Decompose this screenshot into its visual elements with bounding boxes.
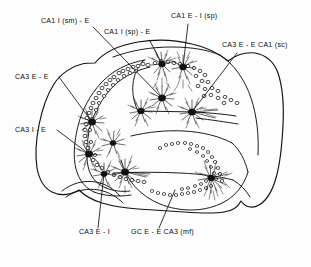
- annotation-labels: CA1 I (sm) - E CA1 I (sp) - E CA1 E - I …: [15, 12, 288, 236]
- leader-ca3-e-e: [59, 77, 92, 122]
- label-ca1-i-sp-e: CA1 I (sp) - E: [104, 28, 150, 36]
- dg-granule-layer-lower: [150, 180, 212, 197]
- hippocampal-slice-drawing: CA1 I (sm) - E CA1 I (sp) - E CA1 E - I …: [0, 0, 311, 267]
- label-ca3-e-i: CA3 E - I: [79, 228, 110, 236]
- ca1-interneuron-left: [128, 98, 155, 126]
- ca3-small-cell: [100, 129, 125, 157]
- leader-ca1-e-i-sp: [183, 24, 188, 67]
- leader-gc-e-e-ca3-mf: [159, 190, 175, 228]
- leader-ca3-e-e-ca1-sc: [192, 53, 237, 112]
- label-ca1-e-i-sp: CA1 E - I (sp): [171, 12, 217, 20]
- dentate-gyrus-outline: [113, 131, 250, 210]
- label-ca3-e-e: CA3 E - E: [15, 73, 49, 81]
- ca1-pyramidal-right: [170, 52, 197, 91]
- label-ca1-i-sm-e: CA1 I (sm) - E: [41, 17, 89, 25]
- dg-granule-cell: [195, 161, 232, 200]
- hippocampal-circuit-figure: CA1 I (sm) - E CA1 I (sp) - E CA1 E - I …: [0, 0, 311, 267]
- label-ca3-i-e: CA3 I - E: [15, 126, 46, 134]
- ca3-pyramidal-lower: [111, 156, 150, 193]
- label-ca3-e-e-ca1-sc: CA3 E - E CA1 (sc): [222, 41, 288, 49]
- label-gc-e-e-ca3-mf: GC E - E CA3 (mf): [131, 228, 194, 236]
